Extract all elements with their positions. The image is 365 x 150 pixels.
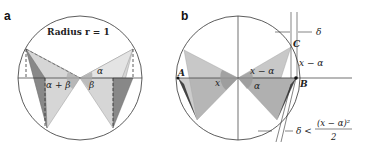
point-a: A: [177, 68, 185, 78]
panel-b: b A B C x x − α α x − α δ δ < (x − α)² 2: [176, 9, 352, 142]
panel-a: a Radius r = 1 α + β α β: [4, 9, 142, 140]
fraction-numerator: (x − α)²: [317, 118, 351, 128]
angle-x: x: [215, 78, 220, 88]
panel-b-label: b: [181, 9, 188, 23]
delta-bottom: δ <: [296, 126, 312, 136]
point-c: C: [293, 39, 301, 49]
diagram: a Radius r = 1 α + β α β b: [0, 0, 365, 150]
fraction-denominator: 2: [330, 132, 336, 142]
angle-x-minus-alpha: x − α: [250, 66, 274, 76]
radius-title: Radius r = 1: [47, 27, 110, 37]
angle-alpha-b: α: [254, 81, 260, 91]
angle-alpha: α: [97, 66, 103, 76]
angle-alpha-plus-beta: α + β: [46, 80, 71, 90]
delta-top: δ: [316, 27, 321, 37]
angle-beta: β: [88, 80, 94, 90]
panel-a-label: a: [4, 9, 11, 23]
arc-label: x − α: [299, 58, 323, 68]
point-b: B: [299, 79, 308, 89]
